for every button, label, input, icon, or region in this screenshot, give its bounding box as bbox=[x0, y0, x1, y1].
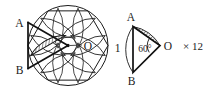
o-leader-left bbox=[70, 45, 82, 46]
label-side-length: 1 bbox=[115, 42, 121, 54]
label-o-right: O bbox=[164, 40, 172, 52]
multiplier-label: × 12 bbox=[183, 40, 203, 52]
label-b-right: B bbox=[128, 75, 136, 87]
chord-b-center-left bbox=[28, 46, 68, 69]
center-point-left bbox=[66, 44, 69, 47]
label-a-right: A bbox=[127, 11, 136, 23]
arc-ab-right bbox=[126, 27, 133, 73]
label-angle-60: 60° bbox=[138, 44, 152, 54]
right-diagram: A B O 1 60° bbox=[115, 11, 173, 87]
label-a-left: A bbox=[15, 17, 24, 29]
figure-canvas: A B O A B O 1 60° × 12 bbox=[0, 0, 213, 92]
label-b-left: B bbox=[16, 64, 24, 76]
geometry-figure: A B O A B O 1 60° × 12 bbox=[0, 0, 213, 92]
left-diagram: A B O bbox=[15, 4, 108, 88]
label-o-left: O bbox=[84, 40, 92, 52]
